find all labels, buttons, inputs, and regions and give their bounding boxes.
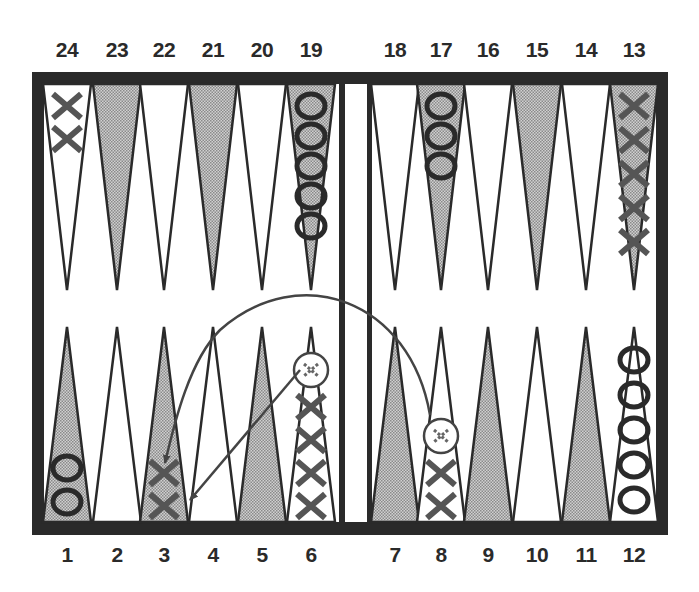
backgammon-board <box>0 0 699 592</box>
right-half <box>372 84 656 522</box>
moved-checker-ghost-icon <box>424 419 458 453</box>
backgammon-diagram: 242322212019181716151413 123456789101112 <box>0 0 699 592</box>
